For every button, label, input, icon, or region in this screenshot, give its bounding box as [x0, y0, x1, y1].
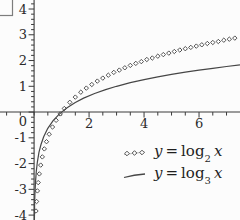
log2-diamond-marker	[84, 86, 88, 90]
log2-diamond-marker	[42, 147, 46, 151]
log2-diamond-marker	[40, 155, 44, 159]
log2-diamond-marker	[134, 61, 138, 65]
y-tick-label: -4	[14, 208, 27, 220]
x-tick-label: 6	[195, 116, 203, 131]
legend-fn: log	[181, 164, 204, 182]
legend-label-log2x: y=log2x	[154, 144, 222, 162]
chart-svg: 24643210-1-2-3-4	[0, 0, 240, 220]
log2-diamond-marker	[145, 57, 149, 61]
log2-diamond-marker	[172, 49, 176, 53]
log2-diamond-marker	[128, 63, 132, 67]
log2-diamond-marker	[73, 95, 77, 99]
log2-diamond-marker	[227, 37, 231, 41]
log2-diamond-marker	[178, 48, 182, 52]
log2-diamond-marker	[150, 56, 154, 60]
log2-diamond-marker	[101, 76, 105, 80]
y-tick-label: 1	[19, 79, 27, 94]
log2-diamond-marker	[68, 100, 72, 104]
line-marker-icon	[123, 169, 146, 181]
log2-diamond-marker	[112, 70, 116, 74]
log2-diamond-marker	[39, 163, 43, 167]
legend-arg: x	[214, 142, 222, 160]
legend-equals: =	[165, 142, 178, 160]
x-tick-label: 2	[85, 116, 93, 131]
log2-diamond-marker	[216, 39, 220, 43]
y-tick-label: -2	[14, 156, 27, 171]
legend-label-log3x: y=log3x	[154, 166, 222, 184]
log2-diamond-marker	[50, 125, 54, 129]
log2-diamond-marker	[123, 66, 127, 70]
log2-diamond-marker	[79, 90, 83, 94]
log2-diamond-marker	[47, 132, 51, 136]
y-tick-label: -3	[14, 182, 27, 197]
y-tick-label: -1	[14, 130, 27, 145]
legend-fn: log	[181, 142, 204, 160]
log2-diamond-marker	[37, 172, 41, 176]
legend-item-log2x: y=log2x	[123, 142, 222, 163]
legend-var: y	[154, 164, 162, 182]
log2-diamond-marker	[167, 51, 171, 55]
window-corner-decoration	[0, 0, 13, 16]
log2-diamond-marker	[44, 140, 48, 144]
log2-diamond-marker	[189, 45, 193, 49]
y-tick-label: 2	[19, 53, 27, 68]
log-functions-plot: 24643210-1-2-3-4 y=log2x y=log3x	[0, 0, 240, 220]
log2-diamond-marker	[233, 36, 237, 40]
log2-diamond-marker	[90, 82, 94, 86]
log2-diamond-marker	[183, 47, 187, 51]
log2-diamond-marker	[205, 41, 209, 45]
legend-base: 2	[205, 153, 211, 164]
legend: y=log2x y=log3x	[123, 142, 222, 186]
log2-diamond-marker	[35, 189, 39, 193]
log2-diamond-marker	[106, 73, 110, 77]
legend-equals: =	[165, 164, 178, 182]
y-tick-label: 4	[19, 2, 27, 17]
legend-item-log3x: y=log3x	[123, 164, 222, 185]
log2-diamond-marker	[95, 79, 99, 83]
legend-var: y	[154, 142, 162, 160]
log2-diamond-marker	[139, 59, 143, 63]
x-tick-label: 4	[140, 116, 148, 131]
log2-diamond-marker	[200, 43, 204, 47]
legend-arg: x	[214, 164, 222, 182]
plot-generated-content: 24643210-1-2-3-4	[0, 0, 240, 220]
diamond-markers-icon	[123, 147, 146, 159]
log2-diamond-marker	[161, 52, 165, 56]
y-tick-label: 0	[19, 114, 27, 129]
log2-diamond-marker	[156, 54, 160, 58]
log2-diamond-marker	[194, 44, 198, 48]
y-tick-label: 3	[19, 27, 27, 42]
log2-diamond-marker	[222, 38, 226, 42]
log2-diamond-marker	[36, 180, 40, 184]
log2-diamond-marker	[211, 40, 215, 44]
log2-diamond-marker	[117, 68, 121, 72]
legend-base: 3	[205, 175, 211, 186]
